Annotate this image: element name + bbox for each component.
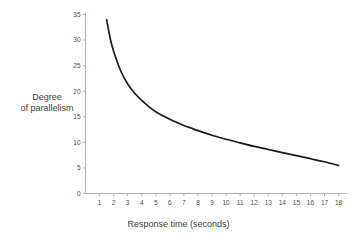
y-axis-tick-label: 25: [73, 62, 81, 69]
x-axis-tick-label: 6: [168, 199, 172, 206]
x-axis-tick-label: 4: [140, 199, 144, 206]
x-axis-tick-label: 18: [335, 199, 343, 206]
y-axis-tick-label: 0: [77, 190, 81, 197]
x-axis-tick-label: 11: [237, 199, 244, 206]
line-chart-plot: 0510152025303512345678910111213141516171…: [0, 0, 357, 246]
x-axis-tick-label: 12: [251, 199, 259, 206]
x-axis-tick-label: 10: [222, 199, 230, 206]
x-axis-tick-label: 16: [307, 199, 315, 206]
x-axis-tick-label: 8: [196, 199, 200, 206]
y-axis-tick-label: 35: [73, 11, 81, 18]
x-axis-tick-label: 14: [279, 199, 287, 206]
x-axis-tick-label: 3: [126, 199, 130, 206]
data-series-line: [107, 20, 339, 166]
x-axis-tick-label: 7: [182, 199, 186, 206]
x-axis-tick-label: 17: [321, 199, 329, 206]
y-axis-tick-label: 30: [73, 36, 81, 43]
y-axis-tick-label: 15: [73, 113, 81, 120]
y-axis-title: Degree of parallelism: [8, 92, 86, 114]
x-axis-tick-label: 2: [112, 199, 116, 206]
x-axis-tick-label: 9: [210, 199, 214, 206]
x-axis-tick-label: 15: [293, 199, 301, 206]
x-axis-tick-label: 5: [154, 199, 158, 206]
x-axis-tick-label: 13: [265, 199, 273, 206]
y-axis-tick-label: 10: [73, 139, 81, 146]
x-axis-title: Response time (seconds): [0, 219, 357, 229]
chart-container: 0510152025303512345678910111213141516171…: [0, 0, 357, 246]
y-axis-tick-label: 5: [77, 164, 81, 171]
y-axis-title-line2: of parallelism: [8, 103, 86, 114]
x-axis-tick-label: 1: [98, 199, 102, 206]
y-axis-title-line1: Degree: [8, 92, 86, 103]
